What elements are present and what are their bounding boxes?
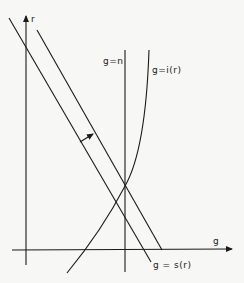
g-equals-n-label: g=n [103,56,123,66]
shift-arrow-icon [80,134,93,142]
g-equals-i-r-label: g=i(r) [152,65,181,75]
g-axis-label: g [213,236,219,246]
g-equals-s-r-line [9,18,151,262]
shifted-s-r-line [37,30,162,250]
r-axis-label: r [31,14,35,24]
growth-diagram: r g g=n g=i(r) g = s(r) [0,0,244,283]
g-equals-i-r-curve [67,50,149,273]
g-equals-s-r-label: g = s(r) [153,260,191,270]
g-axis [12,249,232,250]
